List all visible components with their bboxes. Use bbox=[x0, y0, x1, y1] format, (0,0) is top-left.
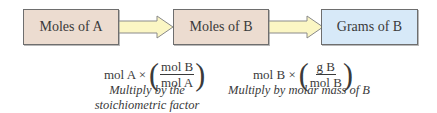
fraction-1-numerator: mol B bbox=[160, 60, 194, 75]
box-moles-b-label: Moles of B bbox=[190, 19, 253, 35]
box-grams-b-label: Grams of B bbox=[337, 19, 402, 35]
caption-stoichiometric: Multiply by the stoichiometric factor bbox=[92, 83, 202, 113]
box-moles-a-label: Moles of A bbox=[40, 19, 103, 35]
box-grams-b: Grams of B bbox=[321, 9, 418, 45]
formula-2-prefix: mol B × bbox=[253, 67, 296, 83]
formula-1-prefix: mol A × bbox=[104, 67, 146, 83]
box-moles-b: Moles of B bbox=[173, 9, 269, 45]
caption-molar-mass: Multiply by molar mass of B bbox=[228, 83, 368, 98]
arrow-b-to-grams-icon bbox=[269, 15, 325, 39]
fraction-2-numerator: g B bbox=[316, 60, 336, 75]
caption-1-line2: stoichiometric factor bbox=[92, 98, 202, 113]
caption-1-line1: Multiply by the bbox=[92, 83, 202, 98]
arrow-a-to-b-icon bbox=[119, 15, 175, 39]
box-moles-a: Moles of A bbox=[23, 9, 119, 45]
caption-2-line1: Multiply by molar mass of B bbox=[228, 83, 368, 98]
